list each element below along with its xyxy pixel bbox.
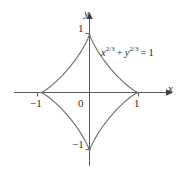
x-tick-label-positive-one: 1 (134, 98, 140, 109)
equation-exponent-x: 2/3 (106, 45, 115, 53)
astroid-quadrant-1 (90, 34, 139, 93)
origin-label: 0 (78, 98, 84, 109)
plot-canvas (0, 0, 179, 173)
y-tick-label-negative-one: −1 (72, 139, 84, 150)
astroid-figure: x2/3+y2/3=1 −1 1 0 1 −1 x y (0, 0, 179, 173)
astroid-quadrant-2 (41, 34, 90, 93)
equation-right-hand-side: 1 (149, 47, 154, 58)
equation-annotation: x2/3+y2/3=1 (101, 45, 154, 58)
equation-plus-operator: + (115, 47, 125, 58)
x-axis-label: x (168, 83, 173, 94)
axes-group (14, 12, 173, 166)
equation-equals-operator: = (138, 47, 148, 58)
y-tick-label-positive-one: 1 (78, 23, 84, 34)
x-tick-label-negative-one: −1 (30, 98, 42, 109)
y-axis-label: y (84, 8, 89, 19)
astroid-quadrant-4 (90, 93, 139, 152)
